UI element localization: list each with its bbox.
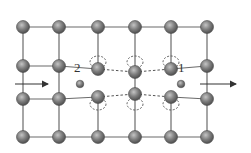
atom	[17, 60, 30, 73]
atom	[53, 60, 66, 73]
atom	[165, 131, 178, 144]
atom	[201, 60, 214, 73]
atom	[129, 21, 142, 34]
atom	[53, 93, 66, 106]
atom	[53, 21, 66, 34]
atom	[17, 93, 30, 106]
atom	[92, 21, 105, 34]
atom	[129, 66, 142, 79]
atom	[165, 21, 178, 34]
atom	[92, 131, 105, 144]
atom	[201, 93, 214, 106]
interstitial-atom-1	[177, 80, 185, 88]
interstitial-atoms	[76, 80, 185, 88]
atom	[17, 131, 30, 144]
atom	[129, 88, 142, 101]
atom	[17, 21, 30, 34]
interstitial-atom-2	[76, 80, 84, 88]
atom	[92, 63, 105, 76]
atom	[92, 91, 105, 104]
interstitial-label-2: 2	[74, 61, 81, 74]
lattice-diagram	[0, 0, 251, 153]
atom	[53, 131, 66, 144]
atom	[165, 63, 178, 76]
atom	[201, 131, 214, 144]
atom	[129, 131, 142, 144]
atom	[201, 21, 214, 34]
interstitial-label-1: 1	[178, 61, 185, 74]
atom	[165, 91, 178, 104]
